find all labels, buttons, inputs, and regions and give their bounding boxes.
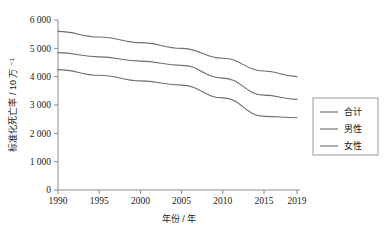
standardized-mortality-rate-line-chart: 01 0002 0003 0004 0005 0006 000 19901995… [0, 0, 392, 242]
x-tick-label: 2010 [213, 196, 232, 206]
legend-label-1: 合计 [344, 106, 362, 117]
y-tick-label: 1 000 [30, 157, 52, 167]
x-axis-title: 年份 / 年 [162, 213, 197, 224]
x-tick-label: 2005 [172, 196, 191, 206]
y-tick-label: 0 [46, 185, 51, 195]
y-tick-label: 2 000 [30, 129, 52, 139]
x-tick-label: 1995 [90, 196, 109, 206]
y-tick-label: 4 000 [30, 72, 52, 82]
x-tick-label: 2019 [288, 196, 307, 206]
x-tick-label: 2015 [255, 196, 274, 206]
x-tick-label: 1990 [49, 196, 68, 206]
legend-label-2: 男性 [344, 123, 362, 134]
y-tick-label: 3 000 [30, 100, 52, 110]
x-tick-label: 2000 [131, 196, 150, 206]
y-tick-label: 5 000 [30, 44, 52, 54]
y-tick-label: 6 000 [30, 15, 52, 25]
legend-label-3: 女性 [344, 140, 362, 151]
y-axis-title: 标准化死亡率 / 10 万 ⁻¹ [7, 58, 18, 151]
legend: 合计男性女性 [313, 98, 378, 155]
